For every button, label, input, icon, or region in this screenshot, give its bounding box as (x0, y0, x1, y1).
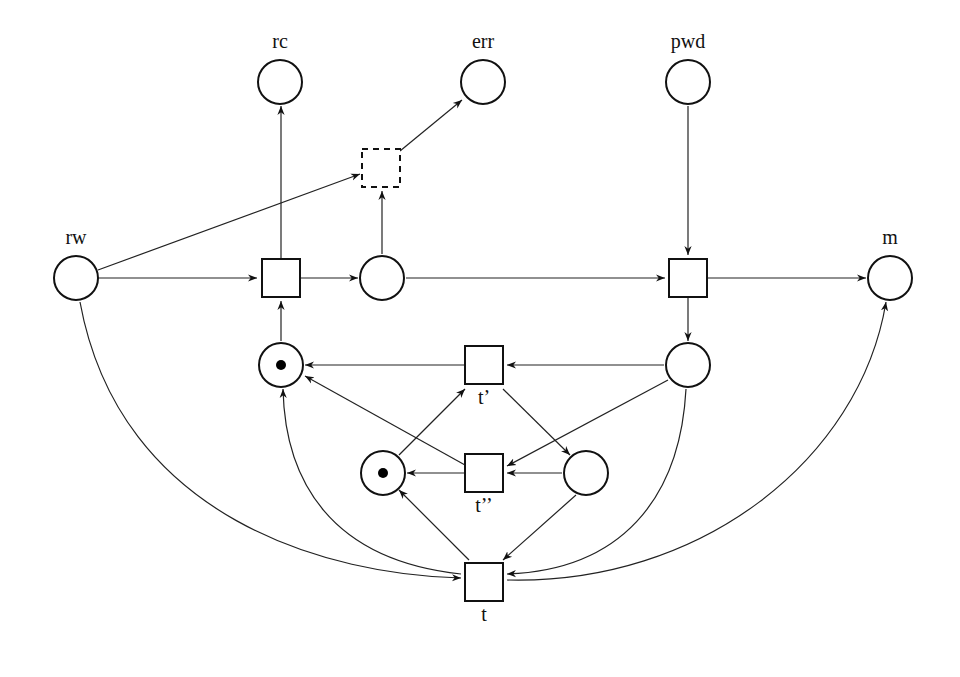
token-dot-icon (378, 468, 388, 478)
place-label-m: m (882, 226, 898, 248)
place-label-rc: rc (272, 30, 288, 52)
arc-t1-to-p_inner (503, 389, 570, 455)
arc-p_inner-to-t (503, 495, 576, 560)
token-dot-icon (276, 360, 286, 370)
arc-t-to-p_lock2 (399, 490, 469, 560)
transition-t1 (465, 346, 503, 384)
place-circle (868, 256, 912, 300)
arc-t_err-to-err (400, 100, 462, 151)
place-label-pwd: pwd (671, 30, 705, 53)
place-label-rw: rw (65, 226, 87, 248)
transition-t_write (669, 259, 707, 297)
transition-t2 (465, 454, 503, 492)
place-p_lock1 (259, 343, 303, 387)
place-circle (564, 451, 608, 495)
transition-label-t1: t’ (478, 386, 490, 408)
transition-t (465, 563, 503, 601)
place-err (461, 60, 505, 104)
arc-rw-to-t (80, 302, 461, 578)
transition-t_read (262, 259, 300, 297)
place-rc (258, 60, 302, 104)
petri-net-diagram: rcerrpwdrwmt’t’’t (0, 0, 960, 677)
transitions-layer (262, 149, 707, 601)
place-p_lock2 (361, 451, 405, 495)
place-p_mid (360, 256, 404, 300)
arc-rw-to-t_err (98, 174, 360, 270)
labels-layer: rcerrpwdrwmt’t’’t (65, 30, 898, 625)
place-circle (461, 60, 505, 104)
place-circle (666, 60, 710, 104)
place-label-err: err (472, 30, 495, 52)
place-m (868, 256, 912, 300)
transition-label-t2: t’’ (475, 494, 492, 516)
arc-p_lock2-to-t1 (399, 389, 465, 455)
transition-t_err (362, 149, 400, 187)
place-circle (54, 256, 98, 300)
place-rw (54, 256, 98, 300)
place-pwd (666, 60, 710, 104)
place-p_inner (564, 451, 608, 495)
place-p_right (666, 343, 710, 387)
place-circle (666, 343, 710, 387)
place-circle (258, 60, 302, 104)
transition-label-t: t (481, 603, 487, 625)
place-circle (360, 256, 404, 300)
